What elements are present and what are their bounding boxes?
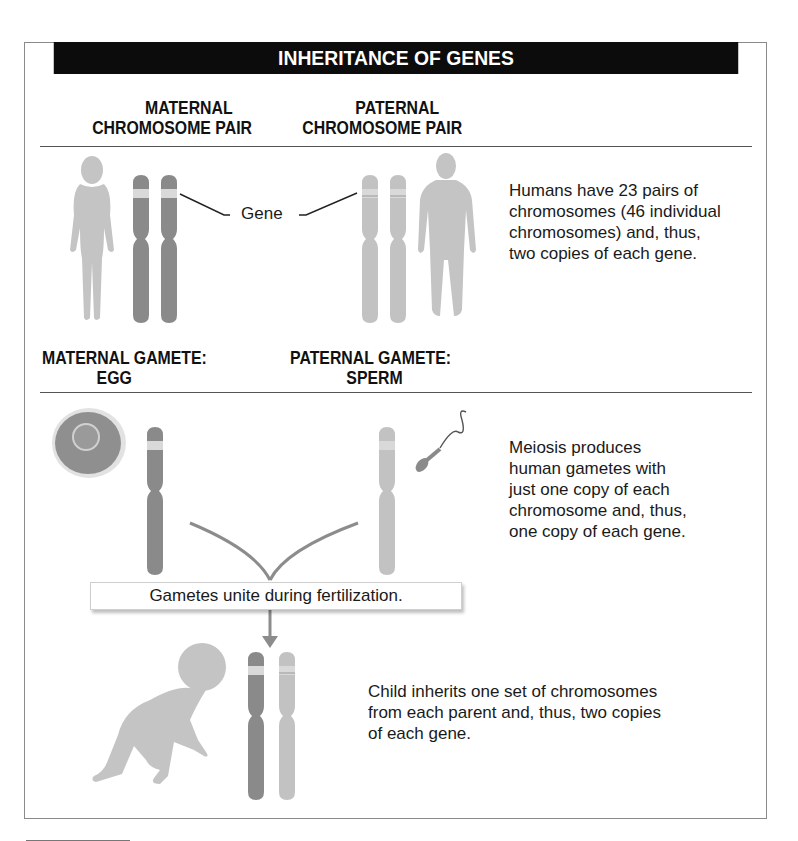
section2-description-line: chromosome and, thus, (509, 500, 687, 521)
sperm-cell-icon (413, 411, 466, 474)
man-silhouette-icon (418, 153, 476, 316)
fertilization-callout: Gametes unite during fertilization. (90, 582, 462, 610)
section2-description-line: just one copy of each (509, 479, 687, 500)
section3-description-line: Child inherits one set of chromosomes (368, 681, 661, 702)
egg-chromosome-icon (147, 427, 163, 575)
section3-description-line: of each gene. (368, 723, 661, 744)
gene-label: Gene (241, 204, 283, 224)
section2-description-line: human gametes with (509, 458, 687, 479)
section1-description-line: chromosomes (46 individual (509, 201, 721, 222)
down-arrow-icon (262, 609, 278, 648)
section1-description: Humans have 23 pairs of chromosomes (46 … (509, 180, 721, 264)
section1-description-line: Humans have 23 pairs of (509, 180, 721, 201)
paternal-chromosome-pair-icon (362, 175, 406, 323)
converging-arrow (190, 523, 358, 580)
sperm-chromosome-icon (379, 427, 395, 575)
woman-silhouette-icon (70, 156, 114, 320)
egg-cell-icon (52, 408, 126, 478)
section3-description: Child inherits one set of chromosomes fr… (368, 681, 661, 744)
section1-description-line: chromosomes) and, thus, (509, 222, 721, 243)
section2-description-line: one copy of each gene. (509, 521, 687, 542)
section2-description: Meiosis produces human gametes with just… (509, 437, 687, 542)
child-chromosome-pair-icon (248, 652, 295, 800)
section2-description-line: Meiosis produces (509, 437, 687, 458)
maternal-chromosome-pair-icon (133, 175, 177, 323)
section3-description-line: from each parent and, thus, two copies (368, 702, 661, 723)
baby-silhouette-icon (92, 643, 226, 784)
section1-description-line: two copies of each gene. (509, 243, 721, 264)
